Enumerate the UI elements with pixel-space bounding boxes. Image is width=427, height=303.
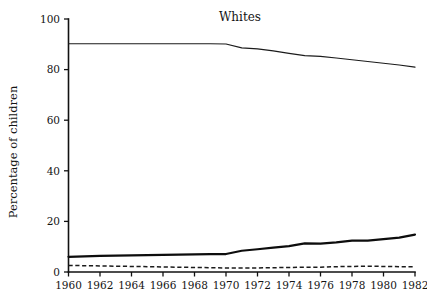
y-tick-label: 60 bbox=[47, 114, 60, 126]
x-tick-label: 1968 bbox=[181, 279, 208, 291]
x-tick-label: 1976 bbox=[307, 279, 334, 291]
x-tick-label: 1960 bbox=[55, 279, 82, 291]
chart-background bbox=[0, 0, 427, 303]
x-tick-label: 1964 bbox=[118, 279, 145, 291]
chart-title: Whites bbox=[219, 10, 261, 24]
y-tick-label: 80 bbox=[47, 63, 60, 75]
x-tick-label: 1980 bbox=[370, 279, 397, 291]
x-tick-label: 1978 bbox=[339, 279, 366, 291]
x-tick-label: 1970 bbox=[213, 279, 240, 291]
y-tick-label: 20 bbox=[47, 215, 60, 227]
x-tick-label: 1966 bbox=[150, 279, 177, 291]
y-tick-label: 0 bbox=[53, 266, 60, 278]
y-tick-label: 100 bbox=[40, 13, 60, 25]
y-axis-title: Percentage of children bbox=[6, 85, 20, 218]
line-chart: Whites Percentage of children 0204060801… bbox=[0, 0, 427, 303]
x-tick-label: 1974 bbox=[276, 279, 303, 291]
x-tick-label: 1982 bbox=[402, 279, 427, 291]
x-tick-label: 1962 bbox=[87, 279, 114, 291]
x-tick-label: 1972 bbox=[244, 279, 271, 291]
chart-figure: Whites Percentage of children 0204060801… bbox=[0, 0, 427, 303]
y-tick-label: 40 bbox=[47, 165, 60, 177]
